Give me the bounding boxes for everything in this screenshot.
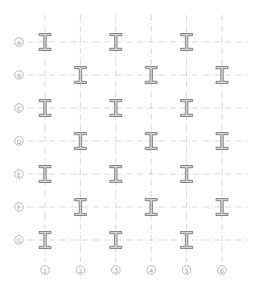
col-label: 6 (220, 267, 224, 274)
row-bubble-D: D (15, 137, 24, 146)
col-label: 3 (114, 267, 118, 274)
col-label: 5 (185, 267, 189, 274)
row-label: E (17, 171, 21, 178)
col-bubble-1: 1 (41, 266, 50, 275)
i-beam-icon (145, 133, 157, 150)
col-bubble-5: 5 (182, 266, 191, 275)
row-label: D (17, 138, 22, 145)
row-bubble-A: A (15, 38, 24, 47)
i-beam-icon (145, 67, 157, 84)
row-bubble-E: E (15, 170, 24, 179)
row-bubble-B: B (15, 71, 24, 80)
i-beam-icon (145, 199, 157, 216)
row-label: F (17, 204, 21, 211)
row-bubble-G: G (15, 236, 24, 245)
col-bubble-6: 6 (218, 266, 227, 275)
row-label: G (17, 237, 22, 244)
col-bubble-2: 2 (76, 266, 85, 275)
steel-columns (39, 34, 228, 249)
row-bubble-F: F (15, 203, 24, 212)
col-bubble-3: 3 (112, 266, 121, 275)
grid-plan: 123456ABCDEFG (0, 0, 260, 290)
col-label: 1 (43, 267, 47, 274)
col-label: 2 (78, 267, 82, 274)
col-bubble-4: 4 (147, 266, 156, 275)
row-label: B (17, 72, 21, 79)
row-label: C (17, 105, 21, 112)
col-label: 4 (149, 267, 153, 274)
row-bubble-C: C (15, 104, 24, 113)
gridlines (27, 15, 248, 262)
